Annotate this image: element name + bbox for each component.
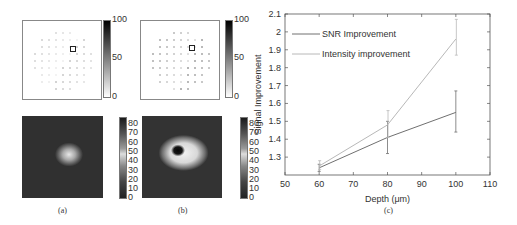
grid-dot	[201, 39, 203, 41]
grid-dot	[201, 46, 203, 48]
x-tick-label: 50	[280, 179, 290, 189]
focus-image-b	[142, 116, 222, 198]
chart-axes: 50607080901001101.31.41.51.61.71.81.922.…	[253, 9, 497, 204]
x-tick-label: 100	[448, 179, 463, 189]
grid-dot	[194, 39, 196, 41]
grid-dot	[173, 81, 175, 83]
grid-dot	[62, 74, 64, 76]
grid-dot	[62, 39, 64, 41]
y-tick-label: 1.3	[268, 152, 281, 162]
series-line	[319, 39, 456, 166]
highlight-square	[70, 46, 76, 52]
grid-dot	[166, 53, 168, 55]
grid-dot	[152, 60, 154, 62]
grid-dot	[194, 67, 196, 69]
caption-a: (a)	[58, 206, 67, 215]
y-tick-label: 1.6	[268, 98, 281, 108]
grid-dot	[55, 81, 57, 83]
grid-dot	[83, 67, 85, 69]
grid-dot	[69, 53, 71, 55]
grid-dot	[76, 81, 78, 83]
colorbar-tick: 100	[112, 14, 127, 24]
grid-dot	[76, 46, 78, 48]
colorbar-b-bottom	[240, 117, 248, 199]
grid-dot	[180, 81, 182, 83]
grid-dot	[173, 53, 175, 55]
grid-dot	[83, 46, 85, 48]
grid-dot	[187, 39, 189, 41]
grid-dot	[34, 67, 36, 69]
grid-dot	[69, 39, 71, 41]
grid-dot	[152, 67, 154, 69]
grid-dot	[69, 81, 71, 83]
grid-dot	[187, 81, 189, 83]
colorbar-tick: 0	[234, 91, 239, 101]
y-tick-label: 2	[276, 27, 281, 37]
grid-dot	[166, 74, 168, 76]
grid-dot	[201, 74, 203, 76]
grid-dot	[76, 53, 78, 55]
colorbar-tick: 50	[112, 52, 122, 62]
legend-label: Intensity improvement	[322, 49, 411, 59]
grid-dot	[187, 32, 189, 34]
grid-dot	[159, 81, 161, 83]
grid-dot	[166, 67, 168, 69]
grid-dot	[187, 60, 189, 62]
grid-dot	[62, 53, 64, 55]
grid-dot	[201, 67, 203, 69]
grid-dot	[194, 53, 196, 55]
series-line	[319, 112, 456, 167]
x-axis-label: Depth (μm)	[365, 194, 410, 204]
colorbar-tick: 0	[249, 192, 254, 202]
grid-dot	[83, 60, 85, 62]
grid-dot	[180, 67, 182, 69]
grid-dot	[48, 46, 50, 48]
grid-dot	[41, 53, 43, 55]
grid-dot	[41, 39, 43, 41]
grid-dot	[69, 88, 71, 90]
grid-dot	[41, 46, 43, 48]
x-tick-label: 60	[314, 179, 324, 189]
colorbar-tick: 50	[234, 52, 244, 62]
grid-dot	[41, 67, 43, 69]
grid-dot	[69, 67, 71, 69]
grid-dot	[180, 88, 182, 90]
y-tick-label: 1.8	[268, 63, 281, 73]
x-tick-label: 110	[483, 179, 497, 189]
grid-dot	[90, 60, 92, 62]
grid-dot	[69, 32, 71, 34]
grid-dot	[159, 53, 161, 55]
grid-dot	[34, 60, 36, 62]
grid-dot	[194, 81, 196, 83]
grid-dot	[62, 81, 64, 83]
grid-dot	[180, 32, 182, 34]
colorbar-a-top	[103, 20, 111, 98]
x-tick-label: 90	[417, 179, 427, 189]
x-tick-label: 80	[382, 179, 392, 189]
grid-dot	[76, 60, 78, 62]
grid-dot	[76, 39, 78, 41]
grid-dot	[180, 74, 182, 76]
colorbar-tick: 0	[112, 91, 117, 101]
chart-legend: SNR ImprovementIntensity improvement	[292, 29, 411, 59]
grid-dot	[166, 39, 168, 41]
focus-image-a	[22, 116, 103, 198]
grid-dot	[173, 67, 175, 69]
grid-dot	[201, 60, 203, 62]
grid-dot	[83, 74, 85, 76]
grid-dot	[83, 81, 85, 83]
grid-dot	[55, 88, 57, 90]
grid-dot	[55, 67, 57, 69]
grid-dot	[166, 60, 168, 62]
colorbar-tick: 0	[128, 192, 133, 202]
grid-dot	[180, 60, 182, 62]
grid-dot	[41, 74, 43, 76]
grid-dot	[159, 39, 161, 41]
grid-dot	[55, 39, 57, 41]
grid-dot	[48, 81, 50, 83]
grid-dot	[180, 39, 182, 41]
y-tick-label: 1.5	[268, 116, 281, 126]
grid-dot	[62, 32, 64, 34]
x-tick-label: 70	[348, 179, 358, 189]
grid-dot	[194, 74, 196, 76]
